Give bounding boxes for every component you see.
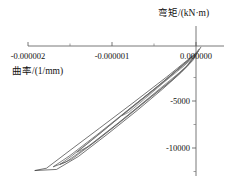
y-tick-label: -10000 xyxy=(166,144,190,153)
hysteresis-plot xyxy=(0,0,236,181)
x-axis-title: 曲率/(1/mm) xyxy=(12,66,63,76)
x-tick-label: -0.000002 xyxy=(11,52,46,61)
y-axis-title: 弯矩/(kN·m) xyxy=(158,8,209,18)
x-tick-label: -0.000001 xyxy=(95,52,130,61)
y-tick-label: -5000 xyxy=(170,97,190,106)
axes-group xyxy=(28,26,224,176)
y-tick-marks xyxy=(192,78,196,172)
chart-figure: 弯矩/(kN·m) 曲率/(1/mm) -0.000002-0.0000010.… xyxy=(0,0,236,181)
x-tick-marks xyxy=(28,42,196,46)
x-tick-label: 0.000000 xyxy=(180,52,212,61)
